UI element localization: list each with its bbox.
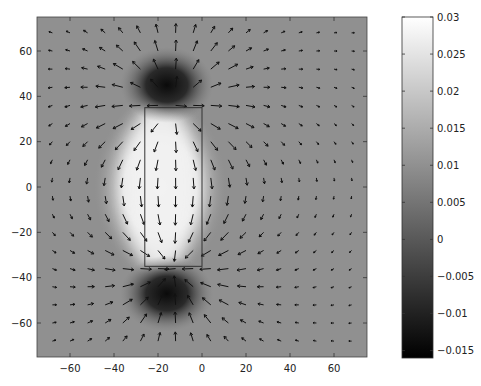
quiver-arrow	[352, 32, 355, 33]
x-tick-label: −20	[147, 363, 168, 374]
colorbar-tick-label: −0.005	[437, 271, 474, 282]
y-tick-label: 0	[26, 182, 32, 193]
dark-spot-2	[120, 256, 213, 332]
quiver-arrow	[349, 340, 352, 341]
colorbar-scale	[402, 17, 433, 358]
colorbar-tick-label: −0.01	[437, 308, 468, 319]
colorbar-tick-label: 0.025	[437, 49, 466, 60]
colorbar-tick-label: −0.015	[437, 345, 474, 356]
dark-spot-1	[120, 47, 213, 123]
x-tick-label: −60	[59, 363, 80, 374]
y-tick-label: 40	[19, 91, 32, 102]
plot-area	[37, 17, 367, 357]
x-tick-label: 60	[328, 363, 341, 374]
x-tick-label: 20	[240, 363, 253, 374]
y-tick-label: −60	[11, 318, 32, 329]
colorbar-tick-label: 0.03	[437, 12, 459, 23]
colorbar-tick-label: 0.01	[437, 160, 459, 171]
y-tick-label: 20	[19, 136, 32, 147]
colorbar-tick-label: 0.015	[437, 123, 466, 134]
colorbar-tick-label: 0.005	[437, 197, 466, 208]
x-tick-label: 40	[284, 363, 297, 374]
y-tick-label: −20	[11, 227, 32, 238]
y-tick-label: −40	[11, 272, 32, 283]
colorbar-tick-label: 0	[437, 234, 443, 245]
x-tick-label: 0	[199, 363, 205, 374]
x-tick-label: −40	[103, 363, 124, 374]
figure: −60−40−200204060 6040200−20−40−60 0.030.…	[0, 0, 481, 386]
colorbar: 0.030.0250.020.0150.010.0050−0.005−0.01−…	[402, 12, 474, 359]
y-tick-label: 60	[19, 46, 32, 57]
colorbar-tick-label: 0.02	[437, 86, 459, 97]
